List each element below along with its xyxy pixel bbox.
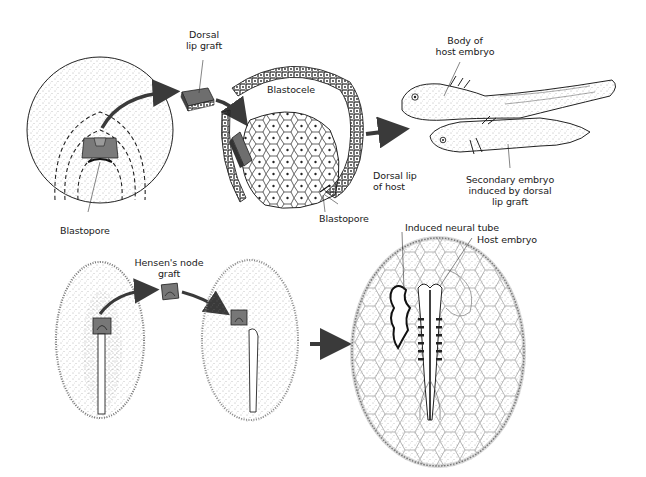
label-blastopore-middle: Blastopore bbox=[319, 213, 369, 224]
label-blastocele: Blastocele bbox=[267, 84, 315, 95]
hensens-node-graft-block bbox=[161, 283, 178, 300]
label-hensens-node-graft: Hensen's node graft bbox=[134, 257, 204, 279]
label-body-of-host-embryo: Body of host embryo bbox=[430, 35, 500, 57]
label-secondary-embryo: Secondary embryo induced by dorsal lip g… bbox=[465, 174, 555, 207]
chick-donor-embryo bbox=[54, 260, 146, 420]
host-embryo-axis bbox=[418, 284, 442, 420]
label-host-embryo: Host embryo bbox=[477, 234, 537, 245]
chick-host-embryo bbox=[200, 258, 300, 422]
chick-induced-result bbox=[350, 232, 526, 468]
dorsal-lip-graft-block bbox=[181, 60, 214, 111]
result-arrow-icon bbox=[366, 130, 398, 134]
conjoined-embryos bbox=[402, 62, 616, 168]
label-dorsal-lip-of-host: Dorsal lip of host bbox=[373, 170, 417, 192]
label-dorsal-lip-graft: Dorsal lip graft bbox=[180, 29, 228, 51]
label-blastopore-left: Blastopore bbox=[60, 225, 110, 236]
embryo-induction-diagram bbox=[0, 0, 646, 477]
label-induced-neural-tube: Induced neural tube bbox=[405, 222, 499, 233]
gastrula-whole-view bbox=[27, 57, 173, 212]
